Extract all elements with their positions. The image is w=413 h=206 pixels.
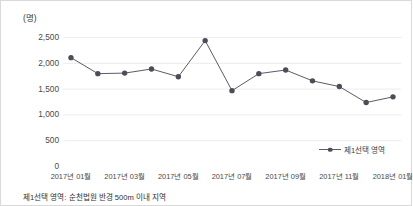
- data-point[interactable]: [283, 67, 288, 72]
- x-tick-label: 2017년 03월: [104, 170, 145, 181]
- x-tick-label: 2018년 01월: [373, 170, 413, 181]
- legend-label: 제1선택 영역: [344, 144, 385, 155]
- y-tick-label: 1,000: [3, 109, 59, 119]
- legend-marker-icon: [328, 147, 333, 152]
- x-tick-label: 2017년 05월: [158, 170, 199, 181]
- data-point[interactable]: [202, 38, 207, 43]
- data-point[interactable]: [337, 84, 342, 89]
- data-point[interactable]: [390, 94, 395, 99]
- data-point[interactable]: [176, 74, 181, 79]
- legend: 제1선택 영역: [319, 144, 385, 155]
- data-point[interactable]: [68, 55, 73, 60]
- y-tick-label: 2,000: [3, 58, 59, 68]
- x-tick-label: 2017년 07월: [212, 170, 253, 181]
- y-tick-label: 2,500: [3, 32, 59, 42]
- footnote: 제1선택 영역: 순천법원 반경 500m 이내 지역: [23, 191, 166, 202]
- x-tick-label: 2017년 01월: [51, 170, 92, 181]
- x-axis: 2017년 01월2017년 03월2017년 05월2017년 07월2017…: [1, 170, 413, 184]
- y-tick-label: 1,500: [3, 84, 59, 94]
- x-tick-label: 2017년 11월: [319, 170, 359, 181]
- data-point[interactable]: [95, 71, 100, 76]
- data-point[interactable]: [149, 66, 154, 71]
- x-tick-label: 2017년 09월: [265, 170, 306, 181]
- data-point[interactable]: [229, 88, 234, 93]
- data-point[interactable]: [310, 78, 315, 83]
- legend-line-swatch: [319, 149, 341, 150]
- data-point[interactable]: [256, 71, 261, 76]
- y-tick-label: 500: [3, 135, 59, 145]
- data-point[interactable]: [363, 100, 368, 105]
- data-point[interactable]: [122, 70, 127, 75]
